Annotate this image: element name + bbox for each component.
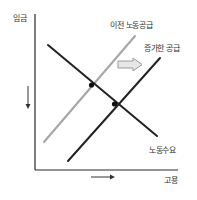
old-supply-label: 이전 노동공급: [110, 22, 152, 30]
new-supply-label: 증가한 공급: [144, 45, 180, 53]
diagram-canvas: [0, 0, 197, 200]
demand-label: 노동수요: [149, 147, 176, 155]
x-axis-label: 고용: [164, 177, 177, 185]
new-equilibrium-point: [112, 101, 117, 106]
employment-right-arrow-icon: [91, 175, 115, 180]
y-axis-label: 임금: [13, 15, 26, 23]
labor-market-diagram: 임금 고용 이전 노동공급 증가한 공급 노동수요: [0, 0, 197, 200]
wage-down-arrow-icon: [26, 86, 31, 109]
supply-shift-arrow-icon: [118, 58, 142, 71]
original-equilibrium-point: [89, 82, 94, 87]
